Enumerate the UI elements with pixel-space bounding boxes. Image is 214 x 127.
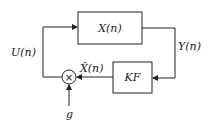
multiply-icon: × (65, 72, 73, 83)
kf-label: KF (124, 71, 141, 84)
block-diagram: X(n) KF Y(n) X̂(n) × g U(n) (0, 0, 214, 127)
estimate-signal: X̂(n) (77, 62, 113, 77)
estimate-label: X̂(n) (79, 62, 104, 75)
control-label: U(n) (11, 46, 36, 59)
plant-block: X(n) (78, 12, 142, 44)
gain-signal: g (66, 85, 73, 121)
gain-label: g (66, 108, 73, 121)
output-label: Y(n) (178, 40, 201, 53)
kalman-filter-block: KF (113, 62, 152, 93)
control-signal: U(n) (11, 27, 77, 77)
multiplier-junction: × (62, 70, 76, 84)
plant-label: X(n) (97, 22, 122, 35)
